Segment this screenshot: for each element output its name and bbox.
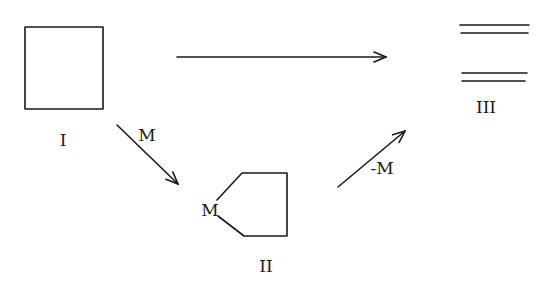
node-i: I <box>25 27 103 150</box>
edge-ii-to-iii: -M <box>338 131 405 187</box>
edge-i-to-ii: M <box>117 125 178 184</box>
edge-i-ii-label: M <box>138 125 155 145</box>
node-ii-label: II <box>259 256 272 276</box>
node-i-label: I <box>60 130 67 150</box>
vertex-m-label: M <box>201 200 218 220</box>
node-ii: M II <box>201 173 287 276</box>
square-shape <box>25 27 103 109</box>
node-iii-label: III <box>476 97 496 117</box>
reaction-diagram: I III M M II -M <box>0 0 556 284</box>
pentagon-shape <box>217 173 287 236</box>
edge-ii-iii-label: -M <box>370 158 393 178</box>
node-iii: III <box>460 25 529 117</box>
